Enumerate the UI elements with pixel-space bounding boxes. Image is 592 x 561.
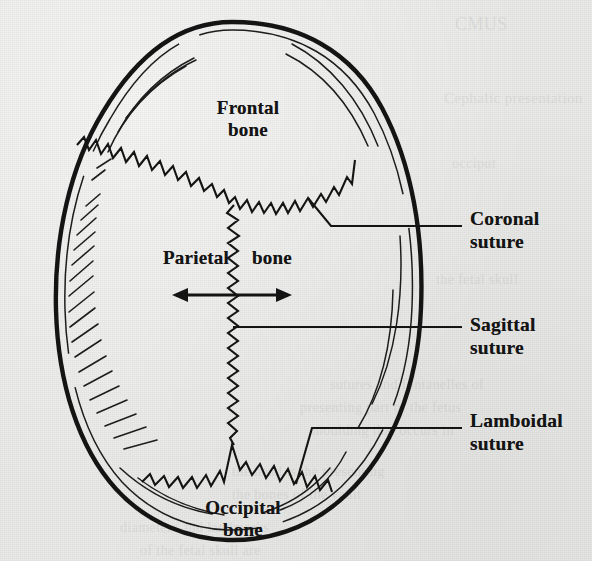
label-line-2: suture: [470, 433, 563, 456]
label-line-1: Lamboidal: [470, 410, 563, 433]
label-line-1: Occipital: [153, 497, 333, 519]
label-line-1: Sagittal: [470, 314, 536, 337]
skull-left-hatching: [69, 159, 157, 449]
label-line-2: bone: [153, 519, 333, 541]
skull-suture-diagram: FrontalboneParietalboneOccipitalbone Cor…: [0, 0, 592, 561]
suture-label-coronal: Coronalsuture: [470, 208, 539, 253]
bone-label-occipital: Occipitalbone: [153, 497, 333, 541]
coronal-suture: [77, 137, 355, 214]
label-line-2: bone: [158, 119, 338, 141]
coronal-leader-line: [308, 198, 462, 226]
label-line-1: Frontal: [158, 97, 338, 119]
bone-label-parietal-right: bone: [182, 247, 362, 269]
label-line-1: Coronal: [470, 208, 539, 231]
label-line-1: bone: [182, 247, 362, 269]
bone-label-frontal: Frontalbone: [158, 97, 338, 141]
sagittal-suture: [227, 205, 239, 445]
suture-label-lamboidal: Lamboidalsuture: [470, 410, 563, 455]
suture-label-sagittal: Sagittalsuture: [470, 314, 536, 359]
label-line-2: suture: [470, 231, 539, 254]
label-line-2: suture: [470, 337, 536, 360]
skull-diagram-svg: [0, 0, 592, 561]
lamboidal-suture: [142, 445, 332, 492]
